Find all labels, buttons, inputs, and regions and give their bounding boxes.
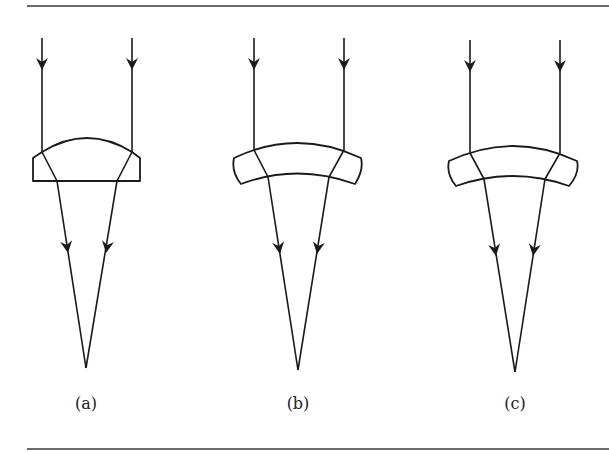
plano-convex-lens [33,138,140,181]
panel-c: (c) [448,40,577,413]
incident-rays-b [248,38,350,150]
meniscus-lens-b [233,143,361,184]
panel-label-c: (c) [504,394,525,413]
refracted-rays-a [42,152,132,368]
panel-label-b: (b) [287,394,310,413]
lens-diagram: (a) (b) [0,0,609,452]
panel-label-a: (a) [75,394,97,413]
incident-rays-a [36,38,138,152]
panel-b: (b) [233,38,361,413]
refracted-rays-c [470,153,560,372]
meniscus-lens-c [448,146,577,186]
incident-rays-c [464,40,566,153]
refracted-rays-b [254,150,344,370]
panel-a: (a) [33,38,140,413]
